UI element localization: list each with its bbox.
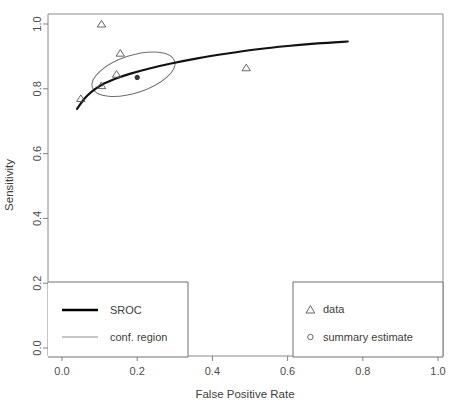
y-axis-tick-label: 1.0 — [31, 16, 43, 31]
x-axis-tick-label: 0.2 — [130, 365, 145, 377]
legend-sroc-label: SROC — [110, 304, 142, 316]
y-axis-title: Sensitivity — [3, 159, 15, 211]
x-axis-tick-label: 1.0 — [430, 365, 445, 377]
y-axis-tick-label: 0.6 — [31, 146, 43, 161]
x-axis-title: False Positive Rate — [195, 388, 294, 400]
y-axis-tick-label: 0.4 — [31, 211, 43, 226]
y-axis-tick-label: 0.8 — [31, 81, 43, 96]
x-axis-tick-label: 0.8 — [355, 365, 370, 377]
legend-right-border — [293, 282, 443, 357]
summary-estimate-marker — [135, 75, 139, 79]
legend-summary-estimate-label: summary estimate — [323, 331, 413, 343]
legend-left-border — [48, 282, 188, 357]
legend-conf-region-label: conf. region — [110, 331, 167, 343]
x-axis-tick-label: 0.0 — [54, 365, 69, 377]
legend-left-box: SROC conf. region — [48, 282, 188, 357]
legend-data-label: data — [323, 303, 345, 315]
sroc-plot-svg: 0.00.20.40.60.81.0 0.00.20.40.60.81.0 Fa… — [0, 0, 455, 408]
summary-estimate-dot — [135, 75, 139, 79]
x-axis-tick-label: 0.4 — [205, 365, 220, 377]
sroc-plot-figure: 0.00.20.40.60.81.0 0.00.20.40.60.81.0 Fa… — [0, 0, 455, 408]
legend-right-box: data summary estimate — [293, 282, 443, 357]
x-axis-tick-label: 0.6 — [280, 365, 295, 377]
y-axis-tick-label: 0.0 — [31, 340, 43, 355]
y-axis-tick-label: 0.2 — [31, 276, 43, 291]
